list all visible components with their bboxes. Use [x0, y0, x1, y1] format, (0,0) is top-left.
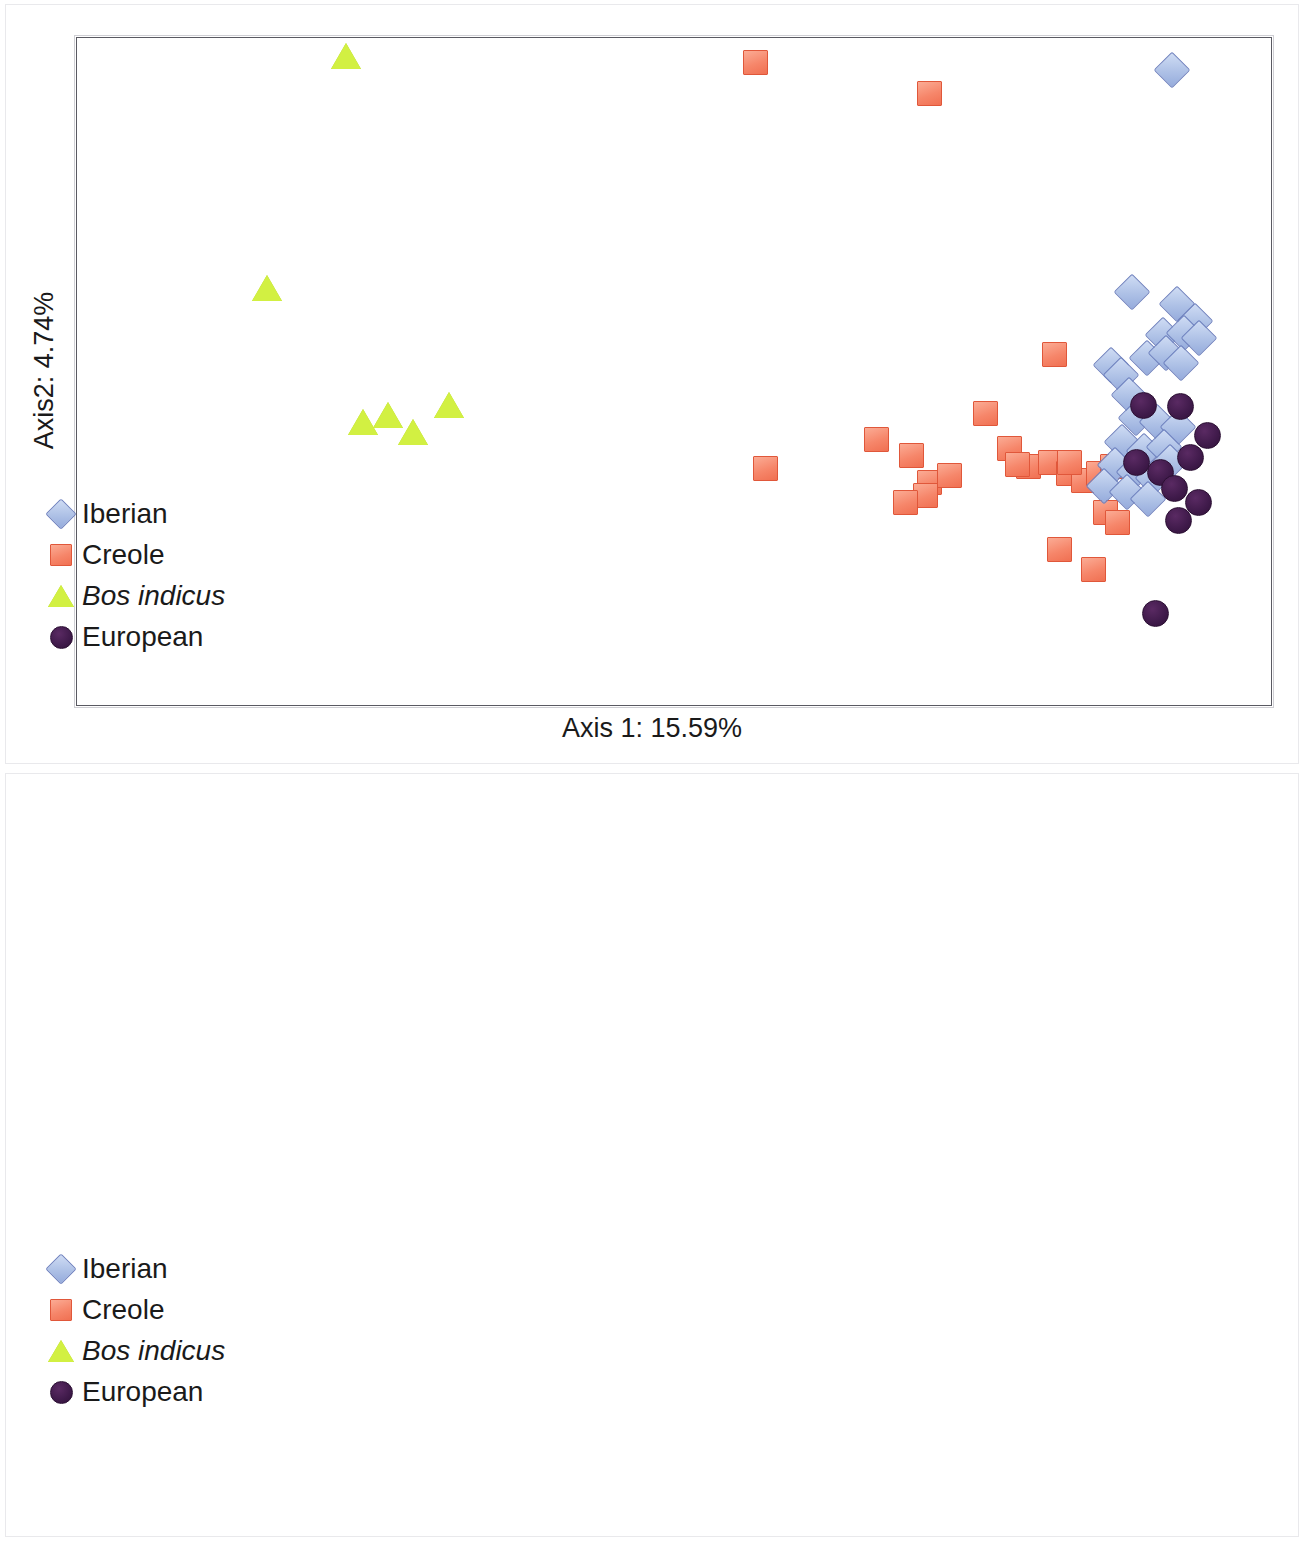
legend-label-iberian: Iberian	[82, 1255, 168, 1283]
data-point-bos-indicus	[398, 419, 428, 445]
data-point-european	[1130, 392, 1157, 419]
legend-item-bos-indicus[interactable]: Bos indicus	[46, 1334, 225, 1368]
data-point-creole	[973, 401, 998, 426]
data-point-european	[1167, 393, 1194, 420]
data-point-creole	[1057, 450, 1082, 475]
plot-frame-axis2	[74, 35, 1274, 708]
data-point-european	[1142, 600, 1169, 627]
circle-marker-icon	[46, 1377, 76, 1407]
data-point-bos-indicus	[252, 275, 282, 301]
legend-item-iberian[interactable]: Iberian	[46, 497, 225, 531]
legend-item-bos-indicus[interactable]: Bos indicus	[46, 579, 225, 613]
legend-item-creole[interactable]: Creole	[46, 1293, 225, 1327]
triangle-marker-icon	[46, 1336, 76, 1366]
legend-item-creole[interactable]: Creole	[46, 538, 225, 572]
data-point-creole	[753, 456, 778, 481]
data-point-creole	[1081, 557, 1106, 582]
legend-axis2: Iberian Creole Bos indicus European	[46, 497, 225, 654]
data-point-iberian	[1154, 51, 1191, 88]
legend-item-european[interactable]: European	[46, 1375, 225, 1409]
data-point-creole	[1042, 342, 1067, 367]
data-point-bos-indicus	[331, 43, 361, 69]
chart-panel-axis3: Iberian Creole Bos indicus European	[5, 773, 1299, 1537]
data-point-creole	[1005, 452, 1030, 477]
legend-item-european[interactable]: European	[46, 620, 225, 654]
data-point-creole	[864, 427, 889, 452]
legend-label-bos-indicus: Bos indicus	[82, 1337, 225, 1365]
figure-page: Iberian Creole Bos indicus European	[0, 0, 1304, 1541]
data-point-european	[1194, 422, 1221, 449]
data-point-creole	[937, 463, 962, 488]
legend-item-iberian[interactable]: Iberian	[46, 1252, 225, 1286]
data-point-creole	[893, 490, 918, 515]
square-marker-icon	[46, 540, 76, 570]
legend-label-creole: Creole	[82, 1296, 164, 1324]
diamond-marker-icon	[46, 499, 76, 529]
data-point-european	[1123, 449, 1150, 476]
legend-label-bos-indicus: Bos indicus	[82, 582, 225, 610]
data-point-bos-indicus	[434, 392, 464, 418]
plot-area-axis2	[75, 36, 1273, 707]
legend-label-european: European	[82, 623, 203, 651]
data-point-creole	[743, 50, 768, 75]
circle-marker-icon	[46, 622, 76, 652]
data-point-creole	[899, 443, 924, 468]
y-axis-title-axis2: Axis2: 4.74%	[29, 261, 60, 481]
data-point-european	[1177, 444, 1204, 471]
diamond-marker-icon	[46, 1254, 76, 1284]
legend-label-iberian: Iberian	[82, 500, 168, 528]
legend-label-european: European	[82, 1378, 203, 1406]
legend-axis3: Iberian Creole Bos indicus European	[46, 1252, 225, 1409]
chart-panel-axis2: Iberian Creole Bos indicus European	[5, 4, 1299, 764]
data-point-iberian	[1113, 274, 1150, 311]
data-point-european	[1165, 507, 1192, 534]
square-marker-icon	[46, 1295, 76, 1325]
data-point-creole	[1105, 510, 1130, 535]
data-point-creole	[917, 81, 942, 106]
data-point-creole	[1047, 537, 1072, 562]
x-axis-title-axis2: Axis 1: 15.59%	[6, 713, 1298, 744]
legend-label-creole: Creole	[82, 541, 164, 569]
data-point-european	[1161, 475, 1188, 502]
triangle-marker-icon	[46, 581, 76, 611]
